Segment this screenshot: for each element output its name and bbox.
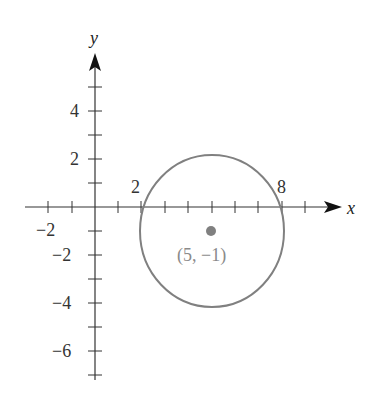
y-tick-label-neg2: −2 [52,245,71,265]
x-tick-label-neg2: −2 [36,220,55,240]
center-point [206,226,216,236]
y-tick-label-2: 2 [70,149,79,169]
chart-svg: x y −2 2 8 4 2 −2 −4 −6 (5, −1) [0,0,374,393]
x-tick-label-8: 8 [277,177,286,197]
y-axis-label: y [88,28,98,48]
y-tick-label-neg6: −6 [52,341,71,361]
chart: x y −2 2 8 4 2 −2 −4 −6 (5, −1) [0,0,374,393]
x-tick-label-2: 2 [131,177,140,197]
y-tick-label-neg4: −4 [52,293,71,313]
y-tick-label-4: 4 [70,101,79,121]
x-axis-label: x [346,198,355,218]
center-point-label: (5, −1) [177,245,226,266]
